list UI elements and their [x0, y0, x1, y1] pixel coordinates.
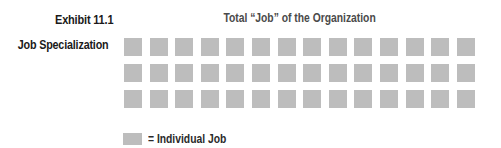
- job-square: [278, 90, 296, 108]
- job-square: [252, 64, 270, 82]
- job-square: [406, 90, 424, 108]
- job-square: [226, 38, 244, 56]
- job-square: [226, 64, 244, 82]
- job-square: [226, 90, 244, 108]
- job-square: [175, 90, 193, 108]
- exhibit-number-label: Exhibit 11.1: [55, 13, 113, 27]
- job-square: [406, 64, 424, 82]
- job-square: [175, 38, 193, 56]
- diagram-header-text: Total “Job” of the Organization: [223, 11, 375, 25]
- job-square: [329, 38, 347, 56]
- job-square: [201, 90, 219, 108]
- job-square: [201, 64, 219, 82]
- job-square: [329, 64, 347, 82]
- legend: = Individual Job: [123, 132, 239, 146]
- job-square: [329, 90, 347, 108]
- job-square: [252, 38, 270, 56]
- job-square: [303, 90, 321, 108]
- job-square: [252, 90, 270, 108]
- job-square: [354, 90, 372, 108]
- job-square: [175, 64, 193, 82]
- job-square: [150, 38, 168, 56]
- job-grid: [124, 38, 475, 108]
- job-square: [406, 38, 424, 56]
- job-square: [380, 64, 398, 82]
- job-square: [303, 38, 321, 56]
- job-square: [457, 38, 475, 56]
- job-square: [303, 64, 321, 82]
- job-square: [150, 90, 168, 108]
- job-square: [124, 90, 142, 108]
- job-square: [124, 38, 142, 56]
- job-square: [380, 90, 398, 108]
- job-square: [431, 90, 449, 108]
- job-square: [278, 38, 296, 56]
- diagram-header: Total “Job” of the Organization: [124, 11, 475, 25]
- job-square: [380, 38, 398, 56]
- job-square: [150, 64, 168, 82]
- job-square: [457, 64, 475, 82]
- exhibit-title: Job Specialization: [17, 38, 108, 52]
- job-square: [201, 38, 219, 56]
- legend-swatch-icon: [123, 133, 142, 145]
- job-square: [354, 38, 372, 56]
- job-square: [354, 64, 372, 82]
- job-square: [431, 64, 449, 82]
- legend-label: = Individual Job: [148, 132, 226, 146]
- job-square: [124, 64, 142, 82]
- job-square: [431, 38, 449, 56]
- job-square: [278, 64, 296, 82]
- job-square: [457, 90, 475, 108]
